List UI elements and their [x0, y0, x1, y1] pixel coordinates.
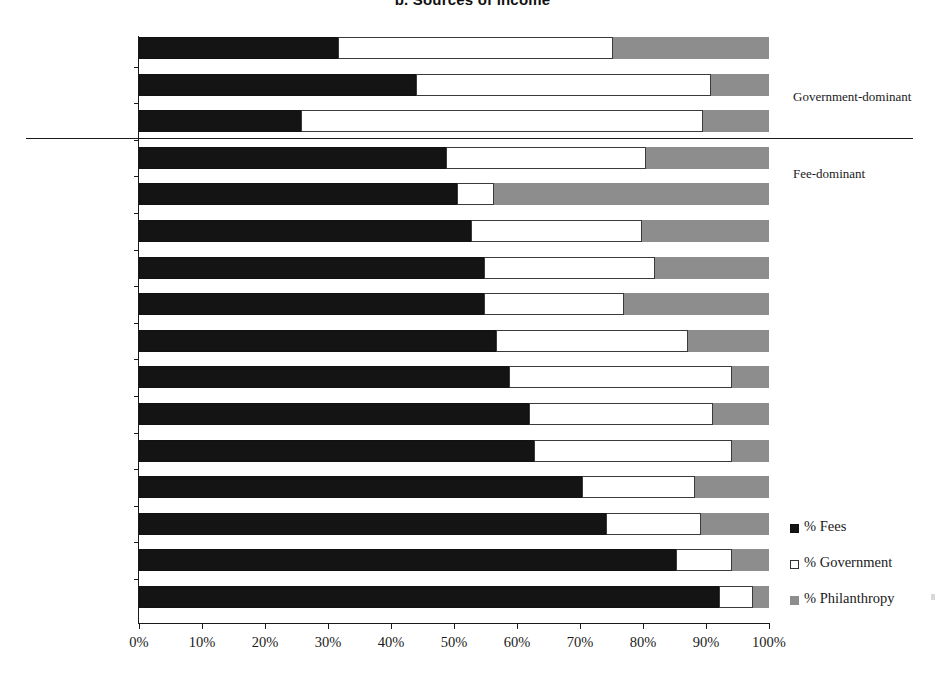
- y-axis-tick: [134, 469, 139, 470]
- x-axis-label: 100%: [739, 634, 799, 651]
- x-axis-tick: [391, 623, 392, 629]
- legend-label-government: % Government: [804, 554, 892, 571]
- x-axis-label: 10%: [172, 634, 232, 651]
- bar-segment-fees: [139, 37, 338, 59]
- x-axis-label: 20%: [235, 634, 295, 651]
- y-axis-tick: [134, 67, 139, 68]
- y-axis-tick: [134, 286, 139, 287]
- bar-segment-philanthropy: [695, 476, 769, 498]
- bar-segment-government: [509, 366, 732, 388]
- y-axis-tick: [134, 359, 139, 360]
- scan-artifact: [931, 594, 935, 600]
- y-axis-tick: [134, 250, 139, 251]
- annotation-fee-dominant: Fee-dominant: [793, 166, 865, 182]
- bar-segment-fees: [139, 586, 719, 608]
- y-axis-tick: [134, 506, 139, 507]
- x-axis-label: 30%: [298, 634, 358, 651]
- y-axis-tick: [134, 103, 139, 104]
- x-axis-tick: [706, 623, 707, 629]
- bar-segment-fees: [139, 257, 484, 279]
- bar-segment-philanthropy: [613, 37, 769, 59]
- bar-segment-fees: [139, 74, 416, 96]
- x-axis-tick: [454, 623, 455, 629]
- legend-label-philanthropy: % Philanthropy: [804, 590, 895, 607]
- x-axis-tick: [328, 623, 329, 629]
- x-axis-label: 80%: [613, 634, 673, 651]
- bar-segment-philanthropy: [642, 220, 769, 242]
- legend-item-philanthropy: % Philanthropy: [790, 590, 940, 626]
- bar-segment-government: [301, 110, 703, 132]
- bar-segment-fees: [139, 366, 509, 388]
- bar-segment-philanthropy: [732, 549, 769, 571]
- plot-area: [139, 36, 769, 623]
- x-axis-label: 70%: [550, 634, 610, 651]
- x-axis-label: 90%: [676, 634, 736, 651]
- bar-segment-government: [484, 257, 655, 279]
- legend-item-government: % Government: [790, 554, 940, 590]
- legend-item-fees: % Fees: [790, 518, 940, 554]
- group-divider-line: [26, 138, 913, 139]
- bar-segment-philanthropy: [655, 257, 769, 279]
- bar-segment-fees: [139, 513, 606, 535]
- bar-segment-government: [446, 147, 646, 169]
- chart-legend: % Fees % Government % Philanthropy: [790, 518, 940, 626]
- bar-segment-fees: [139, 330, 496, 352]
- x-axis-tick: [139, 623, 140, 629]
- y-axis-tick: [134, 396, 139, 397]
- bar-segment-government: [606, 513, 701, 535]
- bar-segment-fees: [139, 110, 301, 132]
- bar-segment-fees: [139, 147, 446, 169]
- bar-segment-fees: [139, 220, 471, 242]
- bar-segment-philanthropy: [646, 147, 769, 169]
- chart-title: b. Sources of income: [0, 0, 945, 8]
- y-axis-tick: [134, 140, 139, 141]
- bar-segment-government: [496, 330, 688, 352]
- bar-segment-government: [719, 586, 754, 608]
- chart-figure: b. Sources of income Government-dominant…: [0, 0, 945, 675]
- bar-segment-fees: [139, 549, 676, 571]
- y-axis-tick: [134, 542, 139, 543]
- y-axis-tick: [134, 323, 139, 324]
- bar-segment-philanthropy: [688, 330, 769, 352]
- bar-segment-government: [338, 37, 613, 59]
- bar-segment-fees: [139, 293, 484, 315]
- x-axis-tick: [769, 623, 770, 629]
- bar-segment-philanthropy: [703, 110, 769, 132]
- bar-segment-government: [457, 183, 494, 205]
- bar-segment-fees: [139, 183, 457, 205]
- bar-segment-philanthropy: [713, 403, 769, 425]
- bar-segment-philanthropy: [711, 74, 769, 96]
- y-axis-tick: [134, 213, 139, 214]
- bar-segment-government: [529, 403, 713, 425]
- y-axis-tick: [134, 579, 139, 580]
- bar-segment-government: [416, 74, 711, 96]
- x-axis-label: 60%: [487, 634, 547, 651]
- government-swatch-icon: [790, 560, 799, 569]
- bar-segment-government: [484, 293, 624, 315]
- x-axis-tick: [643, 623, 644, 629]
- y-axis-tick: [134, 433, 139, 434]
- bar-segment-government: [534, 440, 732, 462]
- bar-segment-fees: [139, 440, 534, 462]
- y-axis-tick: [134, 176, 139, 177]
- bar-segment-government: [582, 476, 695, 498]
- bar-segment-philanthropy: [701, 513, 769, 535]
- fees-swatch-icon: [790, 524, 799, 533]
- bar-segment-fees: [139, 476, 582, 498]
- legend-label-fees: % Fees: [804, 518, 846, 535]
- philanthropy-swatch-icon: [790, 596, 799, 605]
- bar-segment-government: [676, 549, 732, 571]
- x-axis-label: 50%: [424, 634, 484, 651]
- bar-segment-government: [471, 220, 642, 242]
- x-axis-tick: [517, 623, 518, 629]
- x-axis-tick: [580, 623, 581, 629]
- bar-segment-philanthropy: [494, 183, 769, 205]
- bar-segment-philanthropy: [624, 293, 769, 315]
- x-axis-label: 40%: [361, 634, 421, 651]
- annotation-government-dominant: Government-dominant: [793, 89, 911, 105]
- bar-segment-philanthropy: [732, 366, 769, 388]
- bar-segment-fees: [139, 403, 529, 425]
- x-axis-tick: [202, 623, 203, 629]
- bar-segment-philanthropy: [753, 586, 769, 608]
- x-axis-label: 0%: [109, 634, 169, 651]
